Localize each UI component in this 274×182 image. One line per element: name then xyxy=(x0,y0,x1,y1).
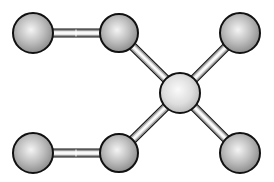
atom-terminal-bottom-left xyxy=(13,133,53,173)
atom-bottom-right xyxy=(220,133,260,173)
atom-terminal-top-left xyxy=(13,13,53,53)
atom-top-middle xyxy=(100,14,138,52)
atom-center xyxy=(160,73,200,113)
atoms-layer xyxy=(13,13,260,173)
bonds-layer xyxy=(33,30,240,157)
atom-top-right xyxy=(220,13,260,53)
atom-bottom-middle xyxy=(100,134,138,172)
molecule-diagram xyxy=(0,0,274,182)
